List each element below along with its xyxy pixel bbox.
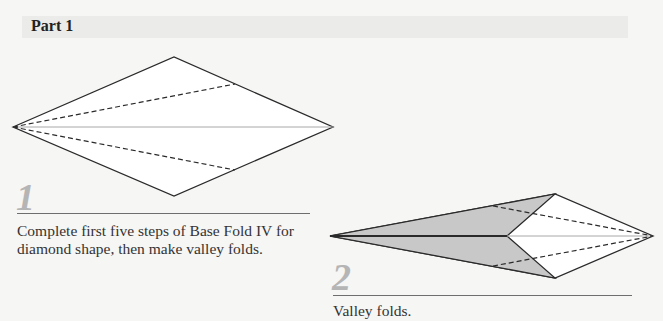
step-1-number: 1 <box>16 178 35 216</box>
step-1-caption: Complete first five steps of Base Fold I… <box>17 222 317 258</box>
step-2-diagram <box>330 194 653 278</box>
step-2-caption: Valley folds. <box>333 302 633 320</box>
step-2-number: 2 <box>332 258 351 296</box>
diamond-shape <box>13 57 333 196</box>
step-1-rule <box>17 213 310 214</box>
step-2-rule <box>333 295 632 296</box>
